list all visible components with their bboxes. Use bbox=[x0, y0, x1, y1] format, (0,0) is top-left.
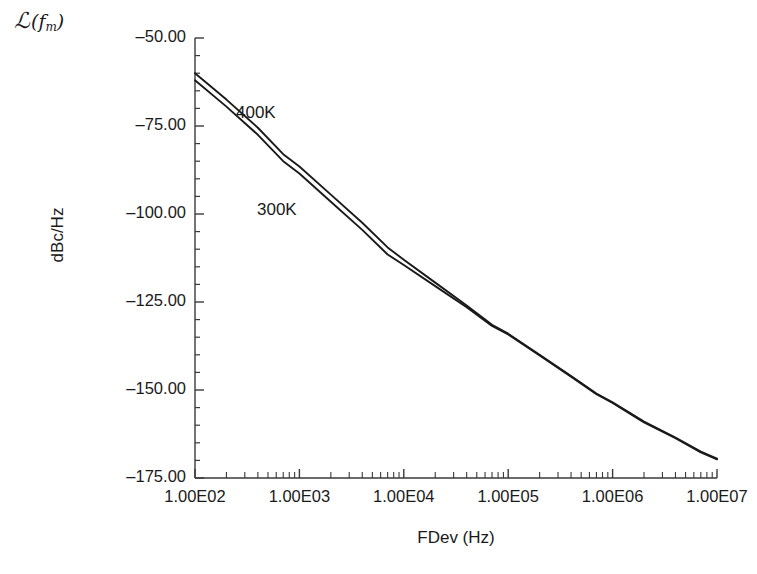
plot-area bbox=[0, 0, 757, 574]
data-curves bbox=[195, 73, 717, 459]
curve-400k bbox=[195, 73, 717, 458]
curve-300k bbox=[195, 80, 717, 459]
phase-noise-chart-figure: ℒ(fm) dBc/Hz –50.00–75.00–100.00–125.00–… bbox=[0, 0, 757, 574]
curve-label-400k: 400K bbox=[236, 103, 276, 123]
curve-label-300k: 300K bbox=[257, 200, 297, 220]
